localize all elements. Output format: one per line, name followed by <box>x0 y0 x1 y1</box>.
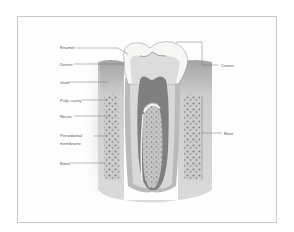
bone-left <box>104 94 120 180</box>
label-membrane: membrane <box>60 141 81 146</box>
tooth-crown <box>124 42 188 84</box>
label-pulp-cavity: Pulp cavity <box>60 98 81 103</box>
label-enamel: Enamel <box>60 45 75 50</box>
bone-right <box>184 94 201 180</box>
label-dentin: Dentin <box>60 62 73 67</box>
label-crown: Crown <box>221 63 234 68</box>
tooth-illustration <box>0 0 294 232</box>
label-root: Root <box>224 131 233 136</box>
label-gum: Gum <box>60 80 69 85</box>
label-bone: Bone <box>60 161 70 166</box>
label-periodontal: Periodontal <box>60 133 82 138</box>
label-nerve: Nerve <box>60 114 72 119</box>
pulp-cavity <box>137 76 168 190</box>
